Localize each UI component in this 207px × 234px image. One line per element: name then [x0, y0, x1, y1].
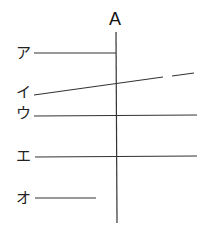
label-u: ウ — [16, 106, 31, 121]
line-u — [34, 115, 197, 116]
diagram-canvas — [0, 0, 207, 234]
line-i-dash — [172, 73, 194, 76]
label-e: エ — [16, 149, 31, 164]
line-e — [35, 156, 197, 157]
label-o: オ — [16, 191, 31, 206]
vertical-line-a — [116, 32, 117, 223]
label-a: ア — [16, 46, 31, 61]
line-i — [34, 77, 163, 95]
label-title-a: A — [109, 10, 121, 28]
label-i: イ — [16, 85, 31, 100]
